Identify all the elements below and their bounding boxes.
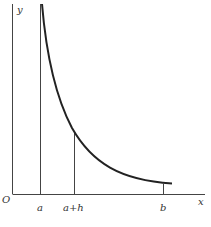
y-axis-label: y [16, 4, 23, 15]
x-axis-label: x [198, 196, 204, 207]
marker-a-label: a [37, 202, 43, 213]
marker-b-label: b [160, 202, 166, 213]
marker-a-plus-h-label: a+h [63, 202, 84, 213]
decreasing-curve [42, 4, 172, 184]
function-graph: y O x a a+h b [0, 0, 211, 227]
origin-label: O [2, 194, 10, 205]
